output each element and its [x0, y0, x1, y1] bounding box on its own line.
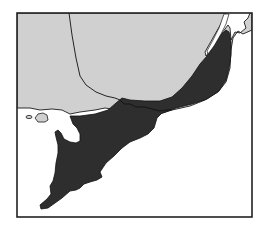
- island-small: [26, 115, 32, 118]
- map-figure: Map showing shaded distribution range al…: [0, 0, 264, 230]
- map-canvas: [0, 0, 264, 230]
